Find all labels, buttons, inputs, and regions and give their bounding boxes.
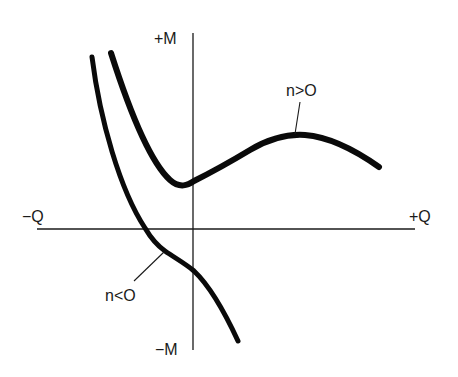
- label-n-negative: n<O: [105, 287, 136, 304]
- axis-label-minus-q: −Q: [22, 208, 44, 225]
- moment-vs-q-diagram: +M −M −Q +Q n>O n<O: [0, 0, 458, 377]
- leader-n-positive: [295, 102, 300, 134]
- axis-label-minus-m: −M: [155, 341, 178, 358]
- curve-n-positive: [111, 53, 379, 185]
- axis-label-plus-q: +Q: [409, 208, 431, 225]
- label-n-positive: n>O: [286, 82, 317, 99]
- leader-n-negative: [134, 252, 164, 281]
- axis-label-plus-m: +M: [154, 30, 177, 47]
